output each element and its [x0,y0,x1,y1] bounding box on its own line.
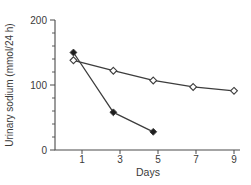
x-tick-label: 1 [79,154,85,165]
x-axis-title: Days [136,166,160,178]
x-tick-label: 5 [155,154,161,165]
open-diamond-marker [110,67,117,74]
chart-canvas: 010020013579 Days Urinary sodium (mmol/2… [0,0,251,185]
slow-decline-open-diamond-line [73,60,234,91]
axis-lines [55,20,240,150]
y-tick-label: 100 [30,80,47,91]
y-axis-title: Urinary sodium (mmol/24 h) [4,23,15,146]
data-series [70,49,237,135]
open-diamond-marker [150,77,157,84]
filled-diamond-marker [110,109,117,116]
y-tick-label: 200 [30,15,47,26]
x-tick-label: 9 [231,154,237,165]
open-diamond-marker [70,57,77,64]
filled-diamond-marker [70,49,77,56]
y-tick-label: 0 [41,145,47,156]
line-chart-figure: 010020013579 Days Urinary sodium (mmol/2… [0,0,251,185]
filled-diamond-marker [150,128,157,135]
axes: 010020013579 [30,15,240,166]
x-tick-label: 7 [193,154,199,165]
open-diamond-marker [231,87,238,94]
open-diamond-marker [190,84,197,91]
x-tick-label: 3 [117,154,123,165]
rapid-decline-filled-diamond-line [73,53,153,132]
